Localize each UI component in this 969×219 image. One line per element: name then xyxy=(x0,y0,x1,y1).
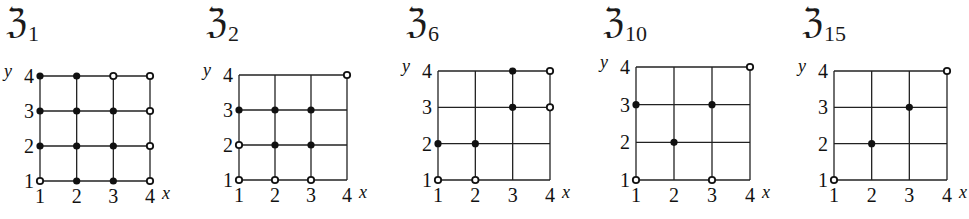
y-tick-label: 3 xyxy=(818,96,828,118)
filled-point xyxy=(906,104,913,111)
y-tick-label: 4 xyxy=(818,60,828,82)
open-point xyxy=(831,177,837,183)
y-axis-label: y xyxy=(796,56,806,76)
y-tick-label: 2 xyxy=(818,133,828,155)
x-axis-label: x xyxy=(958,182,967,202)
x-tick-label: 2 xyxy=(867,184,877,206)
lattice-panel-15: ℨ15 12341234xy xyxy=(0,0,969,219)
x-tick-label: 1 xyxy=(829,184,839,206)
x-tick-label: 3 xyxy=(904,184,914,206)
open-point xyxy=(944,68,950,74)
y-tick-label: 1 xyxy=(818,169,828,191)
filled-point xyxy=(868,140,875,147)
x-tick-label: 4 xyxy=(942,184,952,206)
lattice-grid: 12341234xy xyxy=(0,0,969,219)
